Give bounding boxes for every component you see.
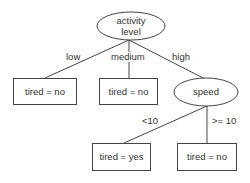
leaf-lt10-label: tired = yes [99,151,143,162]
edge-label-low: low [66,51,80,62]
root-label-line2: level [121,26,141,37]
leaf-low-label: tired = no [25,86,65,97]
leaf-medium-label: tired = no [109,86,149,97]
leaf-node-low: tired = no [14,79,77,105]
root-label-line1: activity [116,15,145,26]
edge-label-medium: medium [111,51,145,62]
edge-label-lt10: <10 [142,115,158,126]
edge-lt10 [124,106,207,143]
leaf-node-speed-ge10: tired = no [178,144,237,171]
leaf-node-medium: tired = no [100,79,158,105]
speed-label: speed [193,86,219,97]
root-node-activity-level: activity level [97,12,165,40]
decision-tree-diagram: low medium high <10 >= 10 activity level… [0,0,250,183]
leaf-node-speed-lt10: tired = yes [93,144,151,171]
leaf-ge10-label: tired = no [187,151,227,162]
edge-label-ge10: >= 10 [212,115,236,126]
edge-label-high: high [172,51,190,62]
node-speed: speed [174,78,238,106]
